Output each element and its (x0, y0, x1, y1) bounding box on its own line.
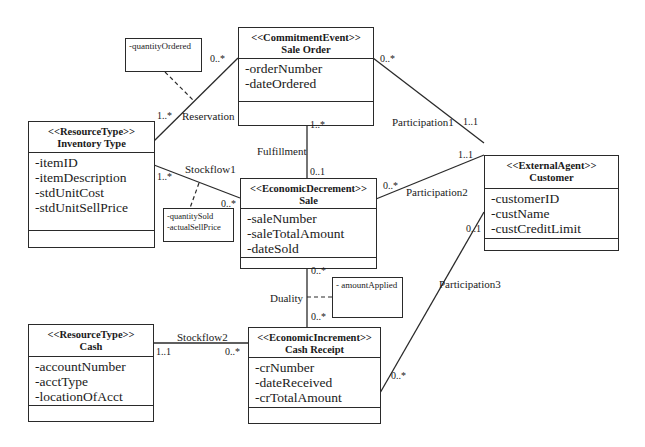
attributes: -saleNumber -saleTotalAmount -dateSold (241, 209, 376, 258)
attribute: -orderNumber (245, 61, 373, 76)
mult-duality-cashreceipt: 0..* (311, 311, 326, 322)
note-attribute: - amountApplied (336, 280, 399, 291)
note-reservation[interactable]: -quantityOrdered (125, 38, 202, 72)
mult-stockflow2-cash: 1..1 (156, 346, 171, 357)
attribute: -custCreditLimit (491, 221, 618, 236)
label-reservation: Reservation (182, 110, 235, 122)
attribute: -itemDescription (35, 170, 154, 185)
stereotype: <<EconomicIncrement>> (249, 332, 380, 344)
class-header: <<EconomicDecrement>> Sale (241, 179, 376, 209)
mult-participation1-saleorder: 0..* (380, 53, 395, 64)
attribute: -dateOrdered (245, 76, 373, 91)
label-duality: Duality (270, 292, 303, 304)
stockflow1-note-link (190, 183, 199, 208)
mult-stockflow1-inventory: 1..* (157, 171, 172, 182)
mult-participation3-customer: 0..1 (466, 223, 481, 234)
class-cash-receipt[interactable]: <<EconomicIncrement>> Cash Receipt -crNu… (248, 327, 381, 424)
label-stockflow1: Stockflow1 (185, 163, 236, 175)
note-attribute: -quantityOrdered (129, 41, 198, 52)
class-sale-order[interactable]: <<CommitmentEvent>> Sale Order -orderNum… (238, 27, 374, 126)
class-cash[interactable]: <<ResourceType>> Cash -accountNumber -ac… (28, 324, 154, 422)
attribute: -dateSold (247, 241, 376, 256)
mult-participation2-customer: 1..1 (458, 149, 473, 160)
mult-participation1-customer: 1..1 (463, 116, 478, 127)
class-header: <<CommitmentEvent>> Sale Order (239, 28, 373, 59)
class-customer[interactable]: <<ExternalAgent>> Customer -customerID -… (484, 155, 619, 251)
attributes: -itemID -itemDescription -stdUnitCost -s… (29, 153, 154, 231)
attribute: -acctType (35, 374, 153, 389)
note-duality[interactable]: - amountApplied (332, 277, 403, 318)
attributes: -accountNumber -acctType -locationOfAcct (29, 357, 153, 406)
label-participation1: Participation1 (392, 116, 454, 128)
attribute: -itemID (35, 155, 154, 170)
attribute: -saleTotalAmount (247, 226, 376, 241)
attribute: -crNumber (255, 360, 380, 375)
note-attribute: -actualSellPrice (167, 222, 230, 233)
attributes: -orderNumber -dateOrdered (239, 59, 373, 102)
mult-stockflow2-cashreceipt: 0..* (225, 346, 240, 357)
reservation-note-link (165, 72, 193, 100)
mult-reservation-saleorder: 0..* (210, 53, 225, 64)
participation1-line (373, 58, 484, 143)
attribute: -saleNumber (247, 211, 376, 226)
label-participation2: Participation2 (406, 186, 468, 198)
attribute: -crTotalAmount (255, 390, 380, 405)
class-name: Inventory Type (29, 138, 154, 150)
class-header: <<ExternalAgent>> Customer (485, 156, 618, 189)
mult-participation2-sale: 0..* (383, 180, 398, 191)
attribute: -accountNumber (35, 359, 153, 374)
label-stockflow2: Stockflow2 (177, 331, 228, 343)
class-name: Customer (485, 172, 618, 184)
mult-duality-sale: 0..* (311, 265, 326, 276)
class-name: Cash (29, 341, 153, 353)
attributes: -crNumber -dateReceived -crTotalAmount (249, 358, 380, 408)
stereotype: <<EconomicDecrement>> (241, 183, 376, 195)
stereotype: <<ExternalAgent>> (485, 160, 618, 172)
class-inventory-type[interactable]: <<ResourceType>> Inventory Type -itemID … (28, 121, 155, 248)
class-header: <<ResourceType>> Inventory Type (29, 122, 154, 153)
stereotype: <<ResourceType>> (29, 126, 154, 138)
note-attribute: -quantitySold (167, 211, 230, 222)
attribute: -locationOfAcct (35, 389, 153, 404)
attribute: -dateReceived (255, 375, 380, 390)
attribute: -stdUnitCost (35, 185, 154, 200)
class-header: <<ResourceType>> Cash (29, 325, 153, 357)
mult-participation3-cashreceipt: 0..* (391, 370, 406, 381)
attribute: -customerID (491, 191, 618, 206)
mult-fulfillment-sale: 0..1 (310, 166, 325, 177)
stereotype: <<ResourceType>> (29, 329, 153, 341)
class-sale[interactable]: <<EconomicDecrement>> Sale -saleNumber -… (240, 178, 377, 269)
label-fulfillment: Fulfillment (257, 145, 307, 157)
label-participation3: Participation3 (439, 278, 501, 290)
attribute: -custName (491, 206, 618, 221)
class-name: Sale Order (239, 44, 373, 56)
stereotype: <<CommitmentEvent>> (239, 32, 373, 44)
class-header: <<EconomicIncrement>> Cash Receipt (249, 328, 380, 358)
attribute: -stdUnitSellPrice (35, 200, 154, 215)
note-stockflow1[interactable]: -quantitySold -actualSellPrice (163, 208, 234, 242)
attributes: -customerID -custName -custCreditLimit (485, 189, 618, 239)
mult-reservation-inventory: 1..* (157, 110, 172, 121)
mult-stockflow1-sale: 0..* (221, 198, 236, 209)
mult-fulfillment-saleorder: 1..* (310, 119, 325, 130)
class-name: Cash Receipt (249, 344, 380, 356)
class-name: Sale (241, 195, 376, 207)
